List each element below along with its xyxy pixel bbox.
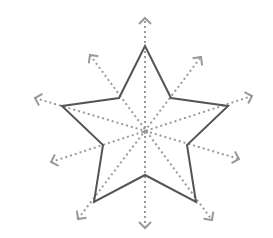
arrowhead-icon	[204, 212, 214, 220]
center-point	[143, 130, 147, 134]
star-symmetry-diagram	[0, 0, 273, 238]
arrowhead-icon	[193, 57, 203, 65]
arrowhead-icon	[244, 92, 252, 103]
symmetry-line	[35, 98, 239, 159]
star-outline	[62, 46, 228, 202]
